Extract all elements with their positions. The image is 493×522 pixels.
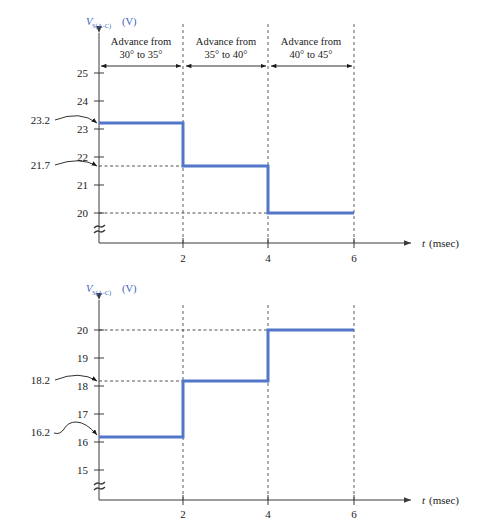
- upper-x-axis-title-unit: (msec): [429, 237, 459, 250]
- upper-band-1: Advance from 30° to 35°: [101, 36, 181, 66]
- upper-band-3: Advance from 40° to 45°: [271, 36, 352, 66]
- upper-ytick-label-23: 23: [77, 123, 89, 135]
- upper-xtick-label-4: 4: [265, 252, 271, 264]
- upper-ytick-label-20: 20: [77, 207, 89, 219]
- lower-ytick-label-15: 15: [77, 464, 89, 476]
- upper-x-axis-title-main: t: [422, 237, 426, 249]
- lower-y-axis-title: V S(A-C) (V): [86, 283, 137, 297]
- lower-ytick-label-17: 17: [77, 408, 89, 420]
- upper-signal-waveform: [99, 123, 354, 213]
- figure-container: 25 24 23 22 21 20 2 4 6 23.2 21.7 Advanc…: [0, 0, 493, 522]
- upper-chart: 25 24 23 22 21 20 2 4 6 23.2 21.7 Advanc…: [31, 16, 460, 264]
- upper-annotation-arrow-23p2: [55, 116, 97, 123]
- lower-signal-waveform: [99, 330, 354, 437]
- upper-ytick-label-25: 25: [77, 67, 89, 79]
- lower-ytick-label-20: 20: [77, 324, 89, 336]
- upper-y-axis-title: V S(A-C) (V): [86, 16, 137, 30]
- upper-x-axis-title: t (msec): [422, 237, 459, 250]
- upper-y-axis-title-unit: (V): [122, 16, 137, 28]
- upper-annotation-label-21p7: 21.7: [31, 159, 51, 171]
- lower-x-axis-title: t (msec): [422, 494, 459, 507]
- upper-ytick-label-24: 24: [77, 95, 89, 107]
- lower-y-axis-title-unit: (V): [122, 283, 137, 295]
- lower-xtick-label-2: 2: [180, 508, 186, 520]
- upper-band-2: Advance from 35° to 40°: [186, 36, 266, 66]
- lower-annotation-label-18p2: 18.2: [31, 374, 50, 386]
- lower-xtick-label-6: 6: [351, 508, 357, 520]
- lower-xtick-label-4: 4: [265, 508, 271, 520]
- upper-annotation-arrow-21p7: [55, 161, 97, 166]
- upper-ytick-label-21: 21: [77, 179, 88, 191]
- upper-band-2-line1: Advance from: [196, 36, 256, 47]
- lower-annotation-arrow-16p2: [54, 422, 97, 435]
- upper-y-axis-title-sub: S(A-C): [92, 22, 111, 30]
- lower-x-axis-title-main: t: [422, 494, 426, 506]
- upper-band-3-line2: 40° to 45°: [290, 49, 333, 60]
- lower-ytick-label-18: 18: [77, 380, 89, 392]
- upper-band-1-line1: Advance from: [111, 36, 171, 47]
- lower-annotation-label-16p2: 16.2: [31, 426, 50, 438]
- upper-band-1-line2: 30° to 35°: [120, 49, 163, 60]
- figure-svg: 25 24 23 22 21 20 2 4 6 23.2 21.7 Advanc…: [0, 0, 493, 522]
- lower-ytick-label-19: 19: [77, 352, 89, 364]
- lower-x-axis-title-unit: (msec): [429, 494, 459, 507]
- upper-band-2-line2: 35° to 40°: [205, 49, 248, 60]
- upper-annotation-label-23p2: 23.2: [31, 114, 50, 126]
- lower-annotation-arrow-18p2: [55, 375, 97, 381]
- lower-ytick-label-16: 16: [77, 436, 89, 448]
- upper-band-3-line1: Advance from: [281, 36, 341, 47]
- lower-y-axis-title-sub: S(A-C): [92, 289, 111, 297]
- upper-xtick-label-2: 2: [180, 252, 186, 264]
- lower-chart: 20 19 18 17 16 15 2 4 6 18.2 16.2 V S(A-: [31, 283, 460, 520]
- upper-xtick-label-6: 6: [351, 252, 357, 264]
